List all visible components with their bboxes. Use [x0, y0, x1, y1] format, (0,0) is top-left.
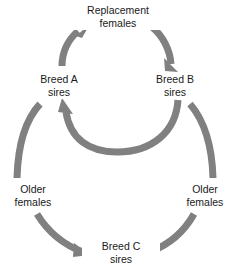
node-breed-a-sires-line1: Breed A	[22, 73, 96, 86]
arrow-breed-b-to-older-females-right	[190, 104, 213, 178]
arrowhead-breed-a-sires	[58, 98, 73, 114]
flow-arrows-svg	[0, 0, 232, 276]
arrow-replacement-females-to-breed-b	[152, 27, 171, 64]
crossbreeding-cycle-diagram: Replacement females Breed A sires Breed …	[0, 0, 232, 276]
node-breed-b-sires-line2: sires	[138, 86, 212, 99]
node-breed-b-sires: Breed B sires	[136, 73, 214, 99]
edge-label-older-females-right-line2: females	[174, 196, 232, 209]
arrow-breed-b-to-breed-a-inner	[66, 100, 178, 152]
node-breed-b-sires-line1: Breed B	[138, 73, 212, 86]
edge-label-replacement-females-line2: females	[64, 17, 172, 30]
edge-label-older-females-left: Older females	[0, 183, 66, 209]
node-breed-a-sires-line2: sires	[22, 86, 96, 99]
node-breed-a-sires: Breed A sires	[20, 73, 98, 99]
edge-label-older-females-right: Older females	[172, 183, 232, 209]
arrow-breed-a-to-older-females-left	[17, 104, 40, 178]
edge-label-older-females-right-line1: Older	[174, 183, 232, 196]
node-breed-c-sires: Breed C sires	[82, 240, 160, 266]
edge-label-older-females-left-line1: Older	[2, 183, 64, 196]
node-breed-c-sires-line2: sires	[84, 253, 158, 266]
arrow-breed-a-to-replacement-females-tail	[62, 31, 78, 66]
edge-label-replacement-females-line1: Replacement	[64, 4, 172, 17]
edge-label-replacement-females: Replacement females	[62, 4, 174, 30]
edge-label-older-females-left-line2: females	[2, 196, 64, 209]
node-breed-c-sires-line1: Breed C	[84, 240, 158, 253]
